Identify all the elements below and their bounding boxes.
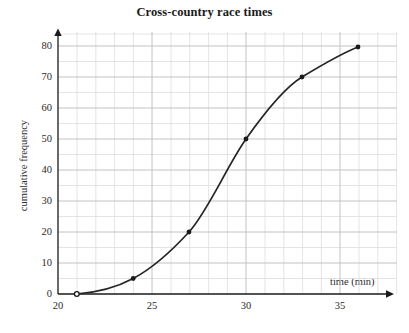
plot-area <box>0 0 409 333</box>
data-point <box>131 276 136 281</box>
data-point <box>300 75 305 80</box>
cumulative-frequency-chart: Cross-country race times cumulative freq… <box>0 0 409 333</box>
data-point <box>244 137 249 142</box>
data-point <box>74 292 79 297</box>
grid-minor-vertical <box>77 32 397 294</box>
x-axis <box>58 290 394 298</box>
data-point <box>187 230 192 235</box>
data-point <box>356 45 361 50</box>
y-axis <box>54 29 61 295</box>
